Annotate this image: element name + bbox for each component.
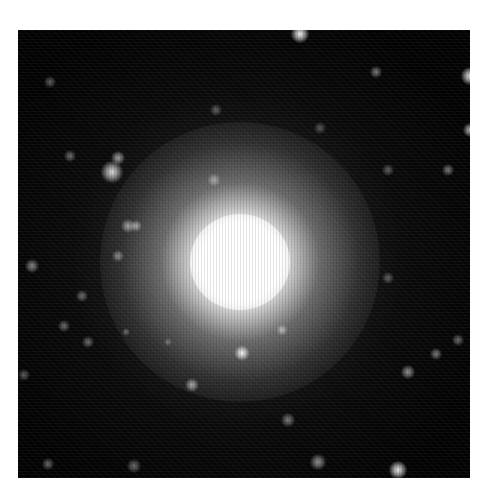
star	[25, 259, 39, 273]
star	[463, 123, 470, 137]
star	[42, 458, 54, 470]
star	[401, 365, 415, 379]
star	[122, 328, 130, 336]
astronomical-image	[18, 30, 470, 478]
star	[461, 67, 470, 85]
image-alt-text: Astronomical image of a bright central s…	[0, 0, 1, 1]
star	[82, 336, 94, 348]
star	[76, 290, 88, 302]
star	[58, 320, 70, 332]
star	[130, 220, 142, 232]
star	[389, 461, 407, 478]
star	[207, 173, 221, 187]
star	[314, 122, 326, 134]
sensor-noise-texture	[18, 30, 470, 478]
star	[234, 345, 250, 361]
star	[281, 413, 295, 427]
star	[291, 30, 309, 43]
star	[112, 250, 124, 262]
star	[18, 369, 30, 381]
star	[185, 378, 199, 392]
diffuse-glow-outer	[18, 30, 470, 478]
bright-core	[190, 214, 290, 310]
star	[382, 272, 394, 284]
star	[370, 66, 382, 78]
star	[382, 164, 394, 176]
star	[64, 150, 76, 162]
page: Astronomical image of a bright central s…	[0, 0, 489, 487]
star	[164, 338, 172, 346]
star	[452, 334, 464, 346]
star	[44, 76, 56, 88]
star	[442, 164, 454, 176]
star	[210, 104, 222, 116]
star	[276, 324, 288, 336]
star	[310, 454, 326, 470]
star	[127, 459, 141, 473]
star	[111, 151, 125, 165]
star	[430, 348, 442, 360]
